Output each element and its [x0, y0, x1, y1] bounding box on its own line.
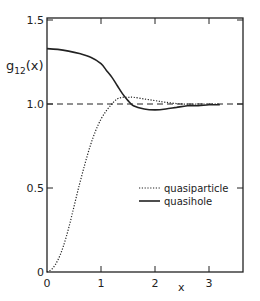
y-tick-label: 1.0: [27, 98, 45, 111]
x-tick-label: 2: [152, 277, 159, 290]
chart-canvas: 012300.51.01.5 g12(x) x quasiparticlequa…: [0, 0, 260, 301]
y-tick-label: 0: [37, 266, 44, 279]
plot-border: [47, 18, 243, 272]
x-axis-label: x: [178, 281, 185, 294]
y-tick-label: 1.5: [27, 14, 45, 27]
data-series: [47, 49, 220, 272]
axis-ticks: 012300.51.01.5: [27, 14, 244, 290]
axis-labels: g12(x) x: [6, 58, 185, 294]
x-tick-label: 0: [44, 277, 51, 290]
series-quasihole: [47, 49, 220, 110]
x-tick-label: 1: [98, 277, 105, 290]
y-tick-label: 0.5: [27, 182, 45, 195]
legend-label-quasiparticle: quasiparticle: [164, 183, 229, 194]
y-axis-label: g12(x): [6, 58, 44, 76]
legend: quasiparticlequasihole: [139, 183, 229, 207]
legend-label-quasihole: quasihole: [164, 196, 212, 207]
x-tick-label: 3: [206, 277, 213, 290]
plot-frame: [47, 18, 243, 272]
